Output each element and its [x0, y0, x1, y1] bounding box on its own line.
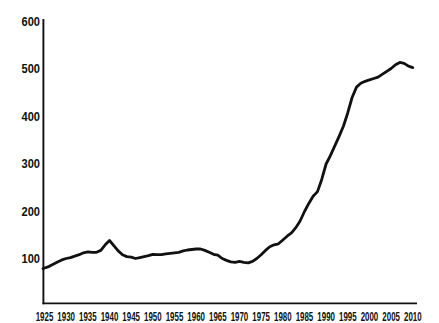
x-tick-label: 1930 — [57, 310, 75, 323]
y-tick-label: 600 — [22, 15, 41, 29]
x-tick-label: 1935 — [79, 310, 97, 323]
x-tick-label: 1925 — [36, 310, 54, 323]
x-tick-label: 1970 — [231, 310, 249, 323]
x-tick-label: 2005 — [382, 310, 400, 323]
x-tick-label: 1995 — [339, 310, 357, 323]
chart-figure: 1002003004005006001925193019351940194519… — [0, 0, 439, 323]
x-tick-label: 1945 — [122, 310, 140, 323]
data-line — [43, 62, 413, 268]
x-tick-label: 1940 — [101, 310, 119, 323]
y-tick-label: 500 — [22, 62, 41, 76]
x-tick-label: 1990 — [317, 310, 335, 323]
y-tick-label: 100 — [22, 252, 41, 266]
x-tick-label: 1960 — [187, 310, 205, 323]
x-tick-label: 1980 — [274, 310, 292, 323]
x-tick-label: 2000 — [361, 310, 379, 323]
x-tick-label: 1955 — [166, 310, 184, 323]
x-tick-label: 1965 — [209, 310, 227, 323]
y-tick-label: 400 — [22, 110, 41, 124]
line-chart: 1002003004005006001925193019351940194519… — [0, 0, 439, 323]
x-tick-label: 1950 — [144, 310, 162, 323]
x-tick-label: 2010 — [404, 310, 422, 323]
y-tick-label: 200 — [22, 205, 41, 219]
x-tick-label: 1975 — [252, 310, 270, 323]
y-tick-label: 300 — [22, 157, 41, 171]
x-tick-label: 1985 — [296, 310, 314, 323]
